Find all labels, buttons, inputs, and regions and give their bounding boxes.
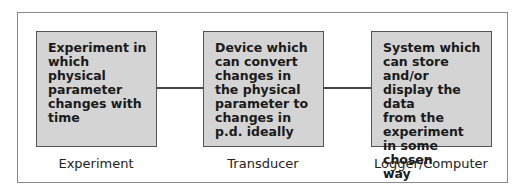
connector-experiment-transducer (157, 87, 203, 89)
experiment-description: Experiment in which physical parameter c… (48, 41, 148, 125)
logger-label: Logger/Computer (351, 156, 511, 171)
experiment-box: Experiment in which physical parameter c… (36, 31, 157, 147)
transducer-label: Transducer (183, 156, 343, 171)
transducer-box: Device which can convert changes in the … (203, 31, 324, 147)
logger-box: System which can store and/or display th… (371, 31, 492, 147)
experiment-label: Experiment (16, 156, 176, 171)
transducer-description: Device which can convert changes in the … (215, 41, 315, 139)
connector-transducer-logger (324, 87, 371, 89)
